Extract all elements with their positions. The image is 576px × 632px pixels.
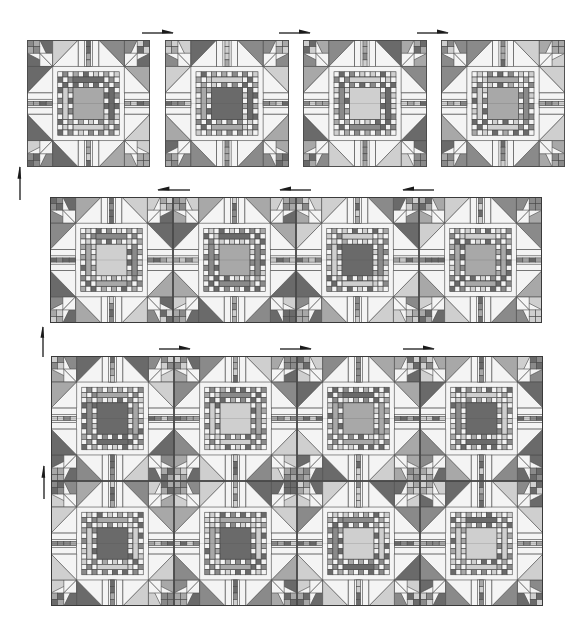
- quilt-block: [27, 40, 150, 167]
- arrow-up-icon: [38, 326, 47, 357]
- arrow-right-icon: [142, 27, 174, 36]
- quilt-block: [174, 356, 297, 481]
- quilt-block: [174, 481, 297, 606]
- arrow-right-icon: [280, 343, 312, 352]
- quilt-block: [303, 40, 427, 167]
- arrow-right-icon: [417, 27, 449, 36]
- arrow-right-icon: [403, 343, 435, 352]
- arrow-right-icon: [159, 343, 191, 352]
- quilt-block: [297, 356, 420, 481]
- quilt-block: [173, 197, 296, 323]
- arrow-up-icon: [39, 465, 48, 499]
- arrow-left-icon: [157, 184, 190, 193]
- quilt-block: [441, 40, 565, 167]
- quilt-block: [420, 481, 543, 606]
- quilt-block: [297, 481, 420, 606]
- quilt-block: [420, 356, 543, 481]
- quilt-block: [165, 40, 289, 167]
- quilt-block: [50, 197, 173, 323]
- quilt-block: [419, 197, 542, 323]
- arrow-left-icon: [279, 184, 311, 193]
- quilt-block: [51, 356, 174, 481]
- quilt-block: [296, 197, 419, 323]
- arrow-up-icon: [15, 166, 24, 200]
- arrow-right-icon: [279, 27, 311, 36]
- arrow-left-icon: [402, 184, 434, 193]
- quilt-block: [51, 481, 174, 606]
